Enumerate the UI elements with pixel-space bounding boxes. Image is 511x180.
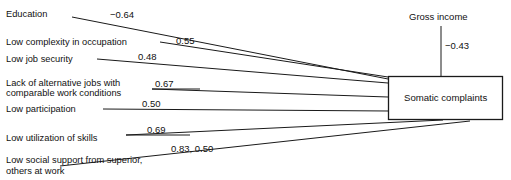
- coefficient-label-education: −0.64: [110, 9, 134, 20]
- connector-line-low-participation: [103, 109, 388, 111]
- connector-line-lack-of-alternative-jobs: [152, 89, 388, 97]
- external-variable-label: Gross income: [409, 11, 468, 22]
- coefficient-label-low-complexity-in-occupation: 0.55: [176, 35, 195, 46]
- coefficient-label-lack-of-alternative-jobs: 0.67: [155, 78, 174, 89]
- predictor-label-low-utilization-of-skills: Low utilization of skills: [6, 133, 98, 143]
- external-variable-coefficient: −0.43: [445, 40, 469, 51]
- coefficient-label-low-utilization-of-skills: 0.69: [147, 124, 166, 135]
- predictor-label-lack-of-alternative-jobs: Lack of alternative jobs with: [6, 78, 120, 88]
- predictor-label-lack-of-alternative-jobs-line2: comparable work conditions: [6, 88, 122, 98]
- outcome-box-label: Somatic complaints: [404, 92, 487, 103]
- connector-line-low-job-security: [97, 59, 388, 83]
- predictor-label-education: Education: [6, 9, 47, 19]
- coefficient-label-low-social-support: 0.83, 0.50: [171, 143, 213, 154]
- predictor-label-low-complexity-in-occupation: Low complexity in occupation: [6, 37, 127, 47]
- connector-line-low-complexity-in-occupation: [160, 42, 388, 77]
- predictor-label-low-job-security: Low job security: [6, 54, 73, 64]
- predictor-label-low-social-support: Low social support from superior,: [6, 155, 142, 165]
- predictor-label-low-participation: Low participation: [6, 104, 76, 114]
- coefficient-label-low-participation: 0.50: [142, 98, 161, 109]
- coefficient-label-low-job-security: 0.48: [138, 51, 157, 62]
- diagram-canvas: Education Low complexity in occupation L…: [0, 0, 511, 180]
- connector-line-low-utilization-of-skills: [126, 120, 443, 135]
- path-diagram: Education Low complexity in occupation L…: [0, 0, 511, 180]
- predictor-label-low-social-support-line2: others at work: [6, 166, 65, 176]
